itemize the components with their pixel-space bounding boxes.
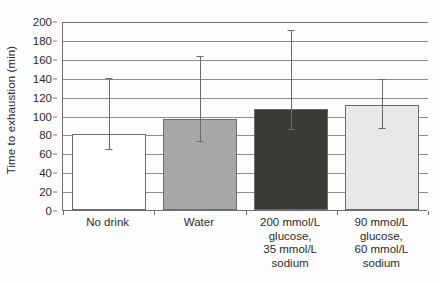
y-axis-tick-mark xyxy=(53,116,57,117)
y-axis-tick-mark xyxy=(53,78,57,79)
y-axis-title: Time to exhaustion (min) xyxy=(0,0,22,220)
error-bar xyxy=(382,79,383,128)
gridline xyxy=(63,60,428,61)
y-axis-title-text: Time to exhaustion (min) xyxy=(5,46,17,175)
x-axis-tick-mark xyxy=(154,211,155,215)
y-axis-tick-label: 80 xyxy=(39,129,52,141)
y-axis-tick-label: 0 xyxy=(46,205,52,217)
error-bar-cap xyxy=(288,129,295,130)
error-bar-cap xyxy=(379,128,386,129)
error-bar xyxy=(109,78,110,149)
error-bar-cap xyxy=(105,78,112,79)
y-axis-tick-mark xyxy=(53,135,57,136)
y-axis-tick-label: 20 xyxy=(39,186,52,198)
chart-figure: Time to exhaustion (min) 020406080100120… xyxy=(0,0,440,283)
error-bar-cap xyxy=(105,149,112,150)
plot-top-frame xyxy=(63,22,428,23)
x-axis-tick-mark xyxy=(337,211,338,215)
x-axis-tick-label: Water xyxy=(153,216,244,230)
y-axis-tick-label: 200 xyxy=(33,16,52,28)
gridline xyxy=(63,41,428,42)
y-axis-tick-mark xyxy=(53,97,57,98)
y-axis-tick-label: 60 xyxy=(39,148,52,160)
y-axis-tick-mark xyxy=(53,211,57,212)
error-bar-cap xyxy=(379,79,386,80)
x-axis-tick-label: No drink xyxy=(62,216,153,230)
y-axis-tick-mark xyxy=(53,192,57,193)
y-axis-tick-labels: 020406080100120140160180200 xyxy=(22,22,57,211)
x-axis-tick-label: 90 mmol/Lglucose,60 mmol/Lsodium xyxy=(336,216,427,270)
error-bar-cap xyxy=(288,30,295,31)
x-axis-tick-mark xyxy=(63,211,64,215)
y-axis-tick-label: 100 xyxy=(33,111,52,123)
gridline xyxy=(63,98,428,99)
error-bar-cap xyxy=(196,141,203,142)
error-bar xyxy=(291,30,292,129)
y-axis-tick-label: 180 xyxy=(33,35,52,47)
error-bar xyxy=(200,56,201,141)
y-axis-tick-mark xyxy=(53,154,57,155)
x-axis-tick-label: 200 mmol/Lglucose,35 mmol/Lsodium xyxy=(245,216,336,270)
x-axis-tick-labels: No drinkWater200 mmol/Lglucose,35 mmol/L… xyxy=(62,216,427,278)
error-bar-cap xyxy=(196,56,203,57)
y-axis-tick-label: 140 xyxy=(33,73,52,85)
x-axis-tick-mark xyxy=(428,211,429,215)
y-axis-tick-label: 40 xyxy=(39,167,52,179)
x-axis-tick-mark xyxy=(246,211,247,215)
y-axis-tick-label: 120 xyxy=(33,92,52,104)
gridline xyxy=(63,79,428,80)
y-axis-tick-mark xyxy=(53,40,57,41)
y-axis-tick-mark xyxy=(53,22,57,23)
y-axis-tick-mark xyxy=(53,59,57,60)
plot-area xyxy=(62,22,427,211)
y-axis-tick-mark xyxy=(53,173,57,174)
y-axis-tick-label: 160 xyxy=(33,54,52,66)
